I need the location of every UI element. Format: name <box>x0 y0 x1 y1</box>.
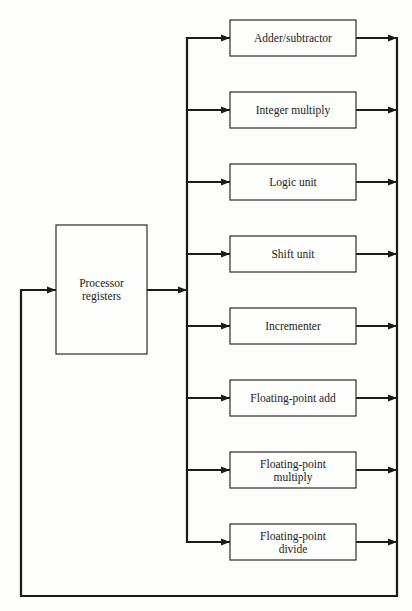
logic-unit: Logic unit <box>230 164 356 200</box>
floating-point-multiply-output-arrowhead <box>388 467 397 474</box>
pipeline-diagram: Adder/subtractorInteger multiplyLogic un… <box>0 0 412 611</box>
processor-registers-label: registers <box>82 290 121 303</box>
processor-registers: Processorregisters <box>56 225 147 354</box>
incrementer-label: Incrementer <box>265 320 321 332</box>
integer-multiply: Integer multiply <box>230 92 356 128</box>
logic-unit-output-arrowhead <box>388 179 397 186</box>
floating-point-divide-label: divide <box>279 543 308 555</box>
blocks: Adder/subtractorInteger multiplyLogic un… <box>56 20 356 560</box>
adder-subtractor-label: Adder/subtractor <box>254 32 332 44</box>
floating-point-add-output-arrowhead <box>388 395 397 402</box>
incrementer: Incrementer <box>230 308 356 344</box>
floating-point-multiply-label: multiply <box>274 471 313 484</box>
incrementer-output-arrowhead <box>388 323 397 330</box>
integer-multiply-input-arrowhead <box>221 107 230 114</box>
shift-unit: Shift unit <box>230 236 356 272</box>
floating-point-divide-label: Floating-point <box>260 530 327 543</box>
floating-point-multiply-input-arrowhead <box>221 467 230 474</box>
floating-point-multiply: Floating-pointmultiply <box>230 452 356 488</box>
shift-unit-input-arrowhead <box>221 251 230 258</box>
shift-unit-output-arrowhead <box>388 251 397 258</box>
floating-point-divide-output-arrowhead <box>388 539 397 546</box>
floating-point-multiply-label: Floating-point <box>260 458 327 471</box>
logic-unit-label: Logic unit <box>269 176 317 189</box>
adder-subtractor-output-arrowhead <box>388 35 397 42</box>
incrementer-input-arrowhead <box>221 323 230 330</box>
registers-to-bus-arrowhead <box>178 287 187 294</box>
floating-point-divide: Floating-pointdivide <box>230 524 356 560</box>
feedback-arrowhead <box>47 287 56 294</box>
adder-subtractor: Adder/subtractor <box>230 20 356 56</box>
processor-registers-label: Processor <box>79 277 124 289</box>
adder-subtractor-input-arrowhead <box>221 35 230 42</box>
floating-point-divide-input-arrowhead <box>221 539 230 546</box>
integer-multiply-label: Integer multiply <box>256 104 331 117</box>
shift-unit-label: Shift unit <box>271 248 315 260</box>
floating-point-add-input-arrowhead <box>221 395 230 402</box>
integer-multiply-output-arrowhead <box>388 107 397 114</box>
logic-unit-input-arrowhead <box>221 179 230 186</box>
floating-point-add-label: Floating-point add <box>250 392 336 405</box>
floating-point-add: Floating-point add <box>230 380 356 416</box>
